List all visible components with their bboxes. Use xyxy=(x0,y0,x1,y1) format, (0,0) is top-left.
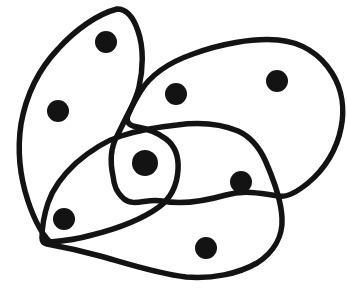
dot-center-triple xyxy=(132,150,158,176)
dot-left-bottom xyxy=(53,208,75,230)
dot-left-mid xyxy=(47,100,69,122)
dot-right-outer xyxy=(266,70,288,92)
right-set-curve xyxy=(111,40,342,203)
set-diagram-stage xyxy=(0,0,347,300)
dot-right-bottom xyxy=(230,171,252,193)
dot-left-top xyxy=(95,31,117,53)
dot-right-inner xyxy=(165,83,187,105)
dot-bottom-only xyxy=(195,237,217,259)
venn-set-diagram xyxy=(0,0,347,300)
